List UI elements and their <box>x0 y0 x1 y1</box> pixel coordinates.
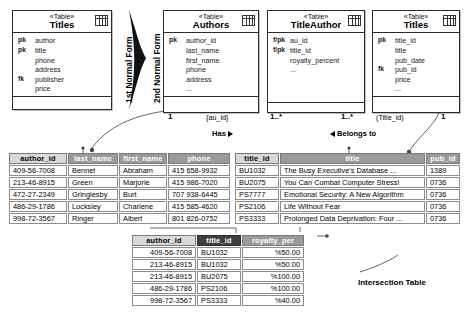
column-header-title-id[interactable]: title_id <box>235 153 279 164</box>
cell-last-name: Gringlesby <box>68 189 118 200</box>
cell-title-id: BU1032 <box>197 247 241 258</box>
titles-data-grid[interactable]: title_id title pub_id BU1032 The Busy Ex… <box>234 152 461 225</box>
cell-title-id: PS2106 <box>197 283 241 294</box>
multiplicity-authors: 1 <box>168 112 172 121</box>
attr-key <box>270 56 290 66</box>
cell-first-name: Marjorie <box>119 177 167 188</box>
uml-operations-compartment <box>13 96 111 106</box>
cell-title: Prolonged Data Deprivation: Four ... <box>280 213 425 224</box>
uml-attribute: ... <box>270 65 362 75</box>
cell-phone: 415 585-4620 <box>168 201 230 212</box>
table-row[interactable]: 998-72-3567 PS3333 %40.00 <box>132 295 304 306</box>
attr-name: title <box>395 46 457 56</box>
column-header-first-name[interactable]: first_name <box>119 153 167 164</box>
rolekey-title-id: (Title_id) <box>376 113 404 122</box>
table-grid-icon <box>348 15 361 26</box>
attr-name: pub_id <box>395 65 457 75</box>
uml-table-authors[interactable]: «Table» Authors pkauthor_id last_name fi… <box>163 10 259 113</box>
uml-table-titleauthor[interactable]: «Table» TitleAuthor f/pkau_id f/pktitle_… <box>267 10 365 113</box>
column-header-author-id[interactable]: author_id <box>132 235 196 246</box>
table-row[interactable]: 998-72-3567 Ringer Albert 801 826-0752 <box>9 213 230 224</box>
table-header-row: title_id title pub_id <box>235 153 460 164</box>
attr-name: title_id <box>395 36 457 46</box>
cell-last-name: Locksley <box>68 201 118 212</box>
column-header-phone[interactable]: phone <box>168 153 230 164</box>
table-row[interactable]: 213-46-8915 BU2075 %100.00 <box>132 271 304 282</box>
attr-name: ... <box>290 65 362 75</box>
column-header-royalty-per[interactable]: royalty_per <box>242 235 304 246</box>
cell-last-name: Bennet <box>68 165 118 176</box>
uml-operations-compartment <box>268 102 364 112</box>
table-row[interactable]: 213-46-8915 Green Marjorie 415 986-7020 <box>9 177 230 188</box>
attr-name: phone <box>35 56 109 66</box>
association-has: Has <box>212 129 233 138</box>
cell-author-id: 409-56-7008 <box>9 165 67 176</box>
table-grid-icon <box>242 15 255 26</box>
multiplicity-titleauthor-right: 1..* <box>341 112 353 121</box>
table-header-row: author_id title_id royalty_per <box>132 235 304 246</box>
column-header-title-id[interactable]: title_id <box>197 235 241 246</box>
cell-author-id: 213-46-8915 <box>132 271 196 282</box>
attr-key: f/pk <box>270 36 290 46</box>
uml-attribute: ... <box>375 84 457 94</box>
cell-pub-id: 0736 <box>426 189 460 200</box>
attr-key <box>270 65 290 75</box>
uml-attribute-list: pkauthor_id last_name first_name phone a… <box>164 33 258 96</box>
table-row[interactable]: BU1032 The Busy Executive's Database ...… <box>235 165 460 176</box>
cell-author-id: 409-56-7008 <box>132 247 196 258</box>
cell-title: Life Without Fear <box>280 201 425 212</box>
multiplicity-titleauthor-left: 1..* <box>270 112 282 121</box>
uml-attribute: pkauthor <box>15 36 109 46</box>
cell-title-id: BU1032 <box>235 165 279 176</box>
uml-attribute-list: pkauthor pktitle phone address fkpublish… <box>13 33 111 96</box>
column-header-last-name[interactable]: last_name <box>68 153 118 164</box>
multiplicity-titles: 1 <box>441 112 445 121</box>
uml-table-titles-normalized[interactable]: «Table» Titles pktitle_id title pub_date… <box>372 10 460 113</box>
uml-attribute: price <box>375 75 457 85</box>
table-row[interactable]: PS7777 Emotional Security: A New Algorit… <box>235 189 460 200</box>
uml-attribute: address <box>15 65 109 75</box>
attr-name: author <box>35 36 109 46</box>
attr-name: last_name <box>186 46 256 56</box>
table-row[interactable]: PS3333 Prolonged Data Deprivation: Four … <box>235 213 460 224</box>
attr-name: ... <box>186 84 256 94</box>
attr-name: ... <box>395 84 457 94</box>
uml-header: «Table» Titles <box>13 11 111 33</box>
uml-attribute: royalty_percent <box>270 56 362 66</box>
cell-pub-id: 1389 <box>426 165 460 176</box>
uml-table-titles-unnormalized[interactable]: «Table» Titles pkauthor pktitle phone ad… <box>12 10 112 110</box>
attr-key: fk <box>375 65 395 75</box>
cell-royalty-per: %100.00 <box>242 283 304 294</box>
attr-key <box>375 75 395 85</box>
table-row[interactable]: 409-56-7008 BU1032 %50.00 <box>132 247 304 258</box>
attr-key <box>166 65 186 75</box>
column-header-author-id[interactable]: author_id <box>9 153 67 164</box>
table-row[interactable]: 486-29-1786 Locksley Charlene 415 585-46… <box>9 201 230 212</box>
table-grid-icon <box>95 15 108 26</box>
attr-key <box>166 56 186 66</box>
cell-author-id: 998-72-3567 <box>9 213 67 224</box>
table-row[interactable]: PS2106 Life Without Fear 0736 <box>235 201 460 212</box>
cell-author-id: 213-46-8915 <box>9 177 67 188</box>
authors-data-grid[interactable]: author_id last_name first_name phone 409… <box>8 152 231 225</box>
uml-attribute: fkpub_id <box>375 65 457 75</box>
titleauthor-intersection-grid[interactable]: author_id title_id royalty_per 409-56-70… <box>131 234 305 307</box>
table-row[interactable]: 472-27-2349 Gringlesby Burt 707 938-6445 <box>9 189 230 200</box>
attr-name: pub_date <box>395 56 457 66</box>
column-header-title[interactable]: title <box>280 153 425 164</box>
uml-attribute: title <box>375 46 457 56</box>
uml-attribute: pktitle_id <box>375 36 457 46</box>
attr-name: title_id <box>290 46 362 56</box>
column-header-pub-id[interactable]: pub_id <box>426 153 460 164</box>
uml-operations-compartment <box>373 96 459 106</box>
attr-name: price <box>35 84 109 94</box>
cell-phone: 415 986-7020 <box>168 177 230 188</box>
cell-pub-id: 0736 <box>426 213 460 224</box>
table-row[interactable]: 213-46-8915 BU1032 %50.00 <box>132 259 304 270</box>
table-row[interactable]: 409-56-7008 Bennet Abraham 415 658-9932 <box>9 165 230 176</box>
attr-key: pk <box>166 36 186 46</box>
cell-first-name: Abraham <box>119 165 167 176</box>
table-row[interactable]: 486-29-1786 PS2106 %100.00 <box>132 283 304 294</box>
uml-header: «Table» Authors <box>164 11 258 33</box>
table-row[interactable]: BU2075 You Can Combat Computer Stress! 0… <box>235 177 460 188</box>
